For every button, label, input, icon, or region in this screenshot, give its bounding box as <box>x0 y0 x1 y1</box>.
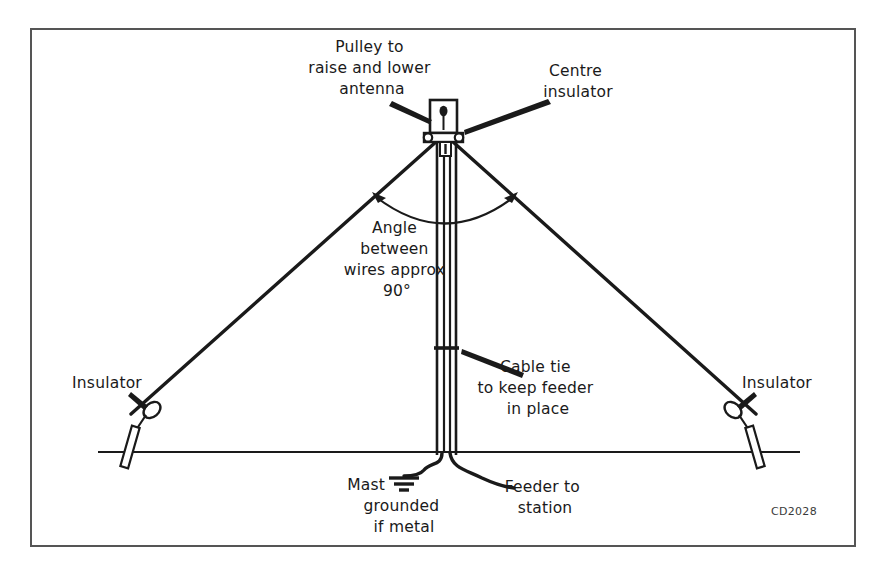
label-insulator-right: Insulator <box>742 374 812 392</box>
antenna-diagram-figure: Pulley to raise and lower antenna Centre… <box>0 0 881 567</box>
diagram-canvas: Pulley to raise and lower antenna Centre… <box>0 0 881 567</box>
figure-reference-code: CD2028 <box>771 505 817 518</box>
label-insulator-left: Insulator <box>72 374 142 392</box>
pulley-wheel-icon <box>440 106 448 116</box>
centre-insulator-eye-left <box>424 133 432 141</box>
centre-insulator-eye-right <box>455 133 463 141</box>
label-mast-grounded-line1: Mast <box>347 476 385 494</box>
